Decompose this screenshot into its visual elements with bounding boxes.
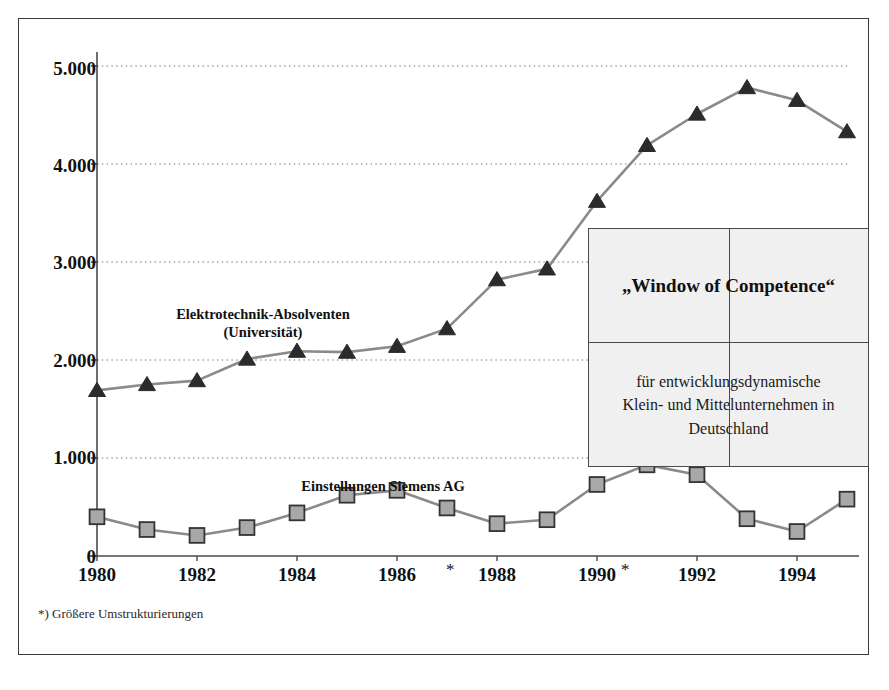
chart-figure: 5.000 4.000 3.000 2.000 1.000 0 1980 198… (0, 0, 889, 690)
x-axis-star-1987: * (446, 560, 455, 580)
x-tick-label-1986: 1986 (367, 564, 427, 586)
y-tick-label-2000: 2.000 (26, 350, 96, 372)
marker-square-1994 (790, 524, 805, 539)
x-tick-label-1992: 1992 (667, 564, 727, 586)
marker-square-1995 (840, 492, 855, 507)
inset-body-line2: Klein- und Mittelunternehmen in (623, 396, 835, 413)
marker-square-1981 (140, 522, 155, 537)
y-tick-label-5000: 5.000 (26, 58, 96, 80)
x-tick-label-1990: 1990 (567, 564, 627, 586)
marker-square-1987 (440, 501, 455, 516)
marker-square-1993 (740, 511, 755, 526)
upper-series-label-line2: (Universität) (148, 324, 378, 342)
marker-triangle-1992 (689, 106, 706, 120)
x-tick-label-1982: 1982 (167, 564, 227, 586)
marker-square-1990 (590, 477, 605, 492)
marker-square-1989 (540, 512, 555, 527)
window-of-competence-box: „Window of Competence“ für entwicklungsd… (588, 228, 869, 467)
marker-square-1983 (240, 520, 255, 535)
marker-triangle-1982 (189, 373, 206, 387)
marker-triangle-1995 (839, 124, 856, 138)
upper-series-label: Elektrotechnik-Absolventen (Universität) (148, 306, 378, 341)
marker-square-1992 (690, 467, 705, 482)
marker-square-1984 (290, 505, 305, 520)
y-tick-label-1000: 1.000 (26, 447, 96, 469)
x-axis-star-1991: * (621, 560, 630, 580)
marker-triangle-1993 (739, 79, 756, 93)
inset-body-line1: für entwicklungsdynamische (636, 373, 820, 390)
y-tick-label-4000: 4.000 (26, 155, 96, 177)
series-line-1 (97, 465, 847, 536)
marker-square-1980 (90, 509, 105, 524)
inset-body: für entwicklungsdynamische Klein- und Mi… (589, 342, 868, 468)
inset-title: „Window of Competence“ (589, 229, 868, 342)
footnote: *) Größere Umstrukturierungen (38, 606, 203, 622)
lower-series-label: Einstellungen Siemens AG (268, 478, 498, 496)
upper-series-label-line1: Elektrotechnik-Absolventen (148, 306, 378, 324)
marker-square-1982 (190, 528, 205, 543)
y-tick-label-3000: 3.000 (26, 252, 96, 274)
marker-triangle-1991 (639, 137, 656, 151)
x-tick-label-1980: 1980 (67, 564, 127, 586)
x-tick-label-1994: 1994 (767, 564, 827, 586)
x-tick-label-1988: 1988 (467, 564, 527, 586)
inset-body-line3: Deutschland (689, 420, 769, 437)
x-tick-label-1984: 1984 (267, 564, 327, 586)
marker-square-1988 (490, 516, 505, 531)
